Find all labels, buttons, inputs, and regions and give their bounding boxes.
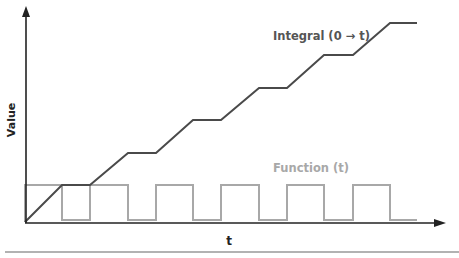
function-label: Function (t) <box>273 161 349 175</box>
x-axis-arrow-icon <box>434 219 446 227</box>
x-axis-label: t <box>226 234 232 248</box>
y-axis-arrow-icon <box>22 6 30 17</box>
chart: Value t Integral (0 → t) Function (t) <box>0 0 459 258</box>
integral-label: Integral (0 → t) <box>273 29 370 43</box>
y-axis-label: Value <box>5 103 18 137</box>
function-series-line <box>25 185 417 222</box>
